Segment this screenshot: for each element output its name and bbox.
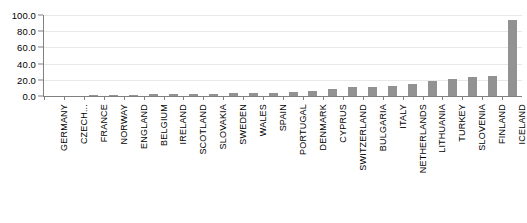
- bar-slot: [104, 15, 124, 96]
- x-axis-label-slot: NETHERLANDS: [403, 102, 423, 197]
- x-axis-label-slot: SLOVENIA: [462, 102, 482, 197]
- x-axis-tick-slot: [383, 96, 403, 101]
- x-axis-tick-mark: [203, 96, 204, 100]
- x-axis-label-slot: CZECH...: [64, 102, 84, 197]
- bar-slot: [64, 15, 84, 96]
- bar-slot: [263, 15, 283, 96]
- bar-slot: [403, 15, 423, 96]
- x-axis-tick-slot: [84, 96, 104, 101]
- x-axis-label-slot: FRANCE: [84, 102, 104, 197]
- x-axis-tick-mark: [283, 96, 284, 100]
- x-axis-tick-mark: [363, 96, 364, 100]
- x-axis-label-slot: SCOTLAND: [183, 102, 203, 197]
- x-axis-tick-slot: [124, 96, 144, 101]
- x-axis-tick-slot: [462, 96, 482, 101]
- bar-slot: [223, 15, 243, 96]
- bar-slot: [84, 15, 104, 96]
- x-axis-tick-slot: [223, 96, 243, 101]
- x-axis-tick-slot: [482, 96, 502, 101]
- bar: [408, 84, 417, 96]
- x-axis-label-slot: CYPRUS: [323, 102, 343, 197]
- x-axis-tick-mark: [403, 96, 404, 100]
- bar-slot: [303, 15, 323, 96]
- x-axis-tick-slot: [363, 96, 383, 101]
- bar-slot: [164, 15, 184, 96]
- x-axis-tick-mark: [423, 96, 424, 100]
- y-axis-tick-label: 60.0: [17, 42, 36, 53]
- x-axis-label-slot: IRELAND: [164, 102, 184, 197]
- bar: [348, 87, 357, 96]
- bar: [328, 89, 337, 96]
- plot-area: [44, 15, 522, 96]
- x-axis-tick-slot: [343, 96, 363, 101]
- x-axis-tick-slot: [403, 96, 423, 101]
- x-axis-tick-mark: [462, 96, 463, 100]
- x-axis-label-slot: TURKEY: [442, 102, 462, 197]
- x-axis-label-slot: ICELAND: [502, 102, 522, 197]
- x-axis-label-slot: FINLAND: [482, 102, 502, 197]
- x-axis-label-slot: BELGIUM: [144, 102, 164, 197]
- bar-slot: [323, 15, 343, 96]
- x-axis-tick-slot: [44, 96, 64, 101]
- x-axis-tick-slot: [183, 96, 203, 101]
- bar-slot: [203, 15, 223, 96]
- x-axis-tick-mark: [502, 96, 503, 100]
- bar-slot: [124, 15, 144, 96]
- x-axis-tick-mark: [243, 96, 244, 100]
- bar-slot: [343, 15, 363, 96]
- bar-series: [44, 15, 522, 96]
- x-axis-tick-slot: [203, 96, 223, 101]
- bar-slot: [283, 15, 303, 96]
- x-axis-tick-mark: [144, 96, 145, 100]
- x-axis-category-label: ICELAND: [517, 104, 527, 144]
- bar: [388, 86, 397, 96]
- bar-slot: [183, 15, 203, 96]
- x-axis-label-slot: NORWAY: [104, 102, 124, 197]
- bar: [448, 79, 457, 96]
- bar: [468, 77, 477, 96]
- x-axis-tick-mark: [223, 96, 224, 100]
- x-axis-label-slot: SPAIN: [263, 102, 283, 197]
- x-axis-label-slot: SWEDEN: [223, 102, 243, 197]
- x-axis-label-slot: BULGARIA: [363, 102, 383, 197]
- x-axis-label-slot: ITALY: [383, 102, 403, 197]
- x-axis-tick-mark: [383, 96, 384, 100]
- x-axis-label-slot: SWITZERLAND: [343, 102, 363, 197]
- x-axis-tick-mark: [323, 96, 324, 100]
- x-axis-tick-slot: [442, 96, 462, 101]
- x-axis-tick-mark: [124, 96, 125, 100]
- x-axis-tick-slot: [502, 96, 522, 101]
- x-axis-tick-mark: [44, 96, 45, 100]
- x-axis-tick-slot: [144, 96, 164, 101]
- bar-slot: [423, 15, 443, 96]
- x-axis-tick-mark: [303, 96, 304, 100]
- x-axis-tick-slot: [64, 96, 84, 101]
- bar-slot: [363, 15, 383, 96]
- bar: [508, 20, 517, 96]
- y-axis-tick-label: 0.0: [22, 91, 36, 102]
- x-axis-tick-slot: [243, 96, 263, 101]
- bar-slot: [442, 15, 462, 96]
- x-axis-tick-mark: [343, 96, 344, 100]
- x-axis-tick-slot: [263, 96, 283, 101]
- bar: [368, 87, 377, 96]
- x-axis-tick-mark: [442, 96, 443, 100]
- x-axis-tick-slot: [104, 96, 124, 101]
- x-axis-label-slot: PORTUGAL: [283, 102, 303, 197]
- bar-slot: [462, 15, 482, 96]
- bar-slot: [44, 15, 64, 96]
- caption-strip: [0, 209, 527, 223]
- y-axis-tick-label: 20.0: [17, 74, 36, 85]
- x-axis-label-slot: LITHUANIA: [423, 102, 443, 197]
- x-axis-label-slot: GERMANY: [44, 102, 64, 197]
- x-axis-tick-mark: [64, 96, 65, 100]
- bar-slot: [482, 15, 502, 96]
- x-axis-label-slot: ENGLAND: [124, 102, 144, 197]
- y-axis: 0.020.040.060.080.0100.0: [0, 0, 44, 110]
- x-axis-tick-slot: [283, 96, 303, 101]
- y-axis-tick-label: 40.0: [17, 58, 36, 69]
- x-axis-tick-mark: [84, 96, 85, 100]
- bar-slot: [502, 15, 522, 96]
- x-axis-label-slot: WALES: [243, 102, 263, 197]
- bar-slot: [144, 15, 164, 96]
